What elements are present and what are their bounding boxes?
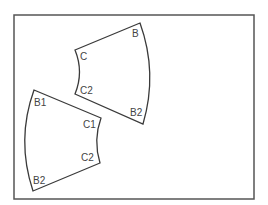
label-c1: C1	[83, 119, 96, 130]
lower-piece: B1 C1 C2 B2	[25, 90, 101, 191]
label-b2-upper: B2	[130, 107, 143, 118]
label-b: B	[132, 28, 139, 39]
label-b1: B1	[34, 97, 47, 108]
label-c2-upper: C2	[80, 85, 93, 96]
label-c2-lower: C2	[81, 152, 94, 163]
diagram-canvas: B C C2 B2 B1 C1 C2 B2	[0, 0, 268, 205]
label-c: C	[80, 51, 87, 62]
upper-piece: B C C2 B2	[75, 23, 150, 124]
label-b2-lower: B2	[33, 175, 46, 186]
